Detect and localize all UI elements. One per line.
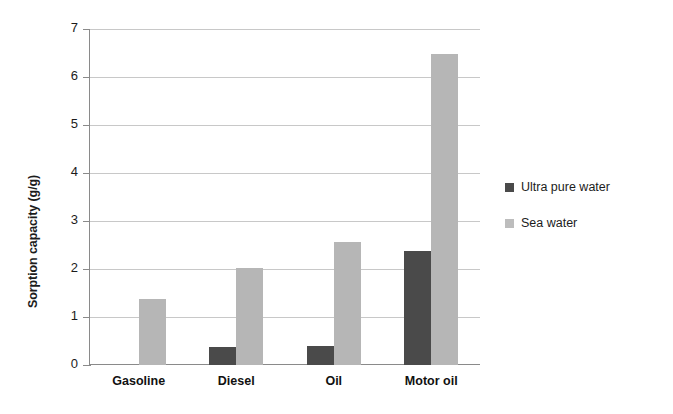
y-axis-title: Sorption capacity (g/g) — [26, 0, 40, 90]
y-tick-0 — [83, 365, 90, 367]
y-tick-label-0: 0 — [52, 356, 78, 371]
legend-label-ultra-pure-water: Ultra pure water — [521, 180, 610, 194]
legend-item-sea-water: Sea water — [505, 212, 610, 234]
y-tick-3 — [83, 221, 90, 223]
bar-gasoline-sea-water — [139, 299, 166, 365]
y-axis-title-text: Sorption capacity (g/g) — [26, 88, 40, 308]
x-axis-label-gasoline: Gasoline — [112, 374, 165, 388]
legend: Ultra pure water Sea water — [505, 176, 610, 248]
y-tick-4 — [83, 173, 90, 175]
gridline-3 — [90, 221, 480, 222]
y-tick-label-6: 6 — [52, 68, 78, 83]
legend-item-ultra-pure-water: Ultra pure water — [505, 176, 610, 198]
bar-chart: Sorption capacity (g/g) 01234567 Gasolin… — [0, 0, 673, 414]
y-tick-1 — [83, 317, 90, 319]
bar-motor-oil-sea-water — [431, 54, 458, 365]
y-tick-2 — [83, 269, 90, 271]
y-tick-label-4: 4 — [52, 164, 78, 179]
y-tick-5 — [83, 125, 90, 127]
bar-motor-oil-ultra-pure-water — [404, 251, 431, 365]
bar-diesel-ultra-pure-water — [209, 347, 236, 365]
gridline-5 — [90, 125, 480, 126]
y-tick-6 — [83, 77, 90, 79]
bar-oil-sea-water — [334, 242, 361, 365]
legend-swatch-icon-sea-water — [505, 219, 514, 228]
bar-oil-ultra-pure-water — [307, 346, 334, 365]
gridline-7 — [90, 29, 480, 30]
x-axis-label-diesel: Diesel — [218, 374, 255, 388]
y-tick-label-2: 2 — [52, 260, 78, 275]
legend-swatch-icon-ultra-pure-water — [505, 183, 514, 192]
gridline-6 — [90, 77, 480, 78]
y-tick-label-5: 5 — [52, 116, 78, 131]
y-tick-label-7: 7 — [52, 20, 78, 35]
x-axis-label-motor-oil: Motor oil — [405, 374, 458, 388]
y-tick-label-1: 1 — [52, 308, 78, 323]
gridline-4 — [90, 173, 480, 174]
bar-diesel-sea-water — [236, 268, 263, 365]
legend-label-sea-water: Sea water — [521, 216, 577, 230]
y-tick-label-3: 3 — [52, 212, 78, 227]
x-axis-label-oil: Oil — [325, 374, 342, 388]
plot-area — [90, 29, 480, 365]
y-tick-7 — [83, 29, 90, 31]
